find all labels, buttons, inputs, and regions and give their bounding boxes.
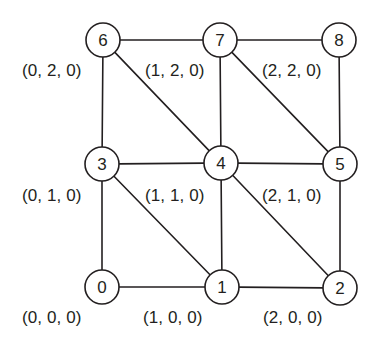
mesh-node-1[interactable]: 1 bbox=[205, 270, 239, 304]
coordinate-label-0-2-0: (0, 2, 0) bbox=[22, 61, 81, 81]
coordinate-label-0-0-0: (0, 0, 0) bbox=[22, 308, 81, 328]
mesh-edge-4-5 bbox=[237, 163, 323, 164]
mesh-edge-4-7 bbox=[220, 56, 221, 146]
mesh-node-5[interactable]: 5 bbox=[323, 147, 357, 181]
mesh-node-6[interactable]: 6 bbox=[86, 23, 120, 57]
mesh-node-3[interactable]: 3 bbox=[85, 147, 119, 181]
node-number-6: 6 bbox=[98, 31, 107, 50]
node-number-2: 2 bbox=[335, 279, 344, 298]
mesh-node-2[interactable]: 2 bbox=[323, 271, 357, 305]
coordinate-label-2-2-0: (2, 2, 0) bbox=[262, 61, 321, 81]
mesh-edge-3-6 bbox=[102, 56, 103, 147]
mesh-edge-1-2 bbox=[238, 287, 323, 288]
mesh-diagram: 012345678 (0, 2, 0)(1, 2, 0)(2, 2, 0)(0,… bbox=[0, 0, 379, 344]
coordinate-label-1-1-0: (1, 1, 0) bbox=[145, 186, 204, 206]
mesh-node-7[interactable]: 7 bbox=[203, 23, 237, 57]
mesh-node-0[interactable]: 0 bbox=[85, 270, 119, 304]
node-number-3: 3 bbox=[97, 155, 106, 174]
mesh-node-4[interactable]: 4 bbox=[204, 146, 238, 180]
coordinate-label-1-0-0: (1, 0, 0) bbox=[143, 308, 202, 328]
node-number-4: 4 bbox=[216, 154, 225, 173]
coordinate-label-1-2-0: (1, 2, 0) bbox=[145, 61, 204, 81]
mesh-edge-1-4 bbox=[221, 179, 222, 270]
coordinate-label-2-1-0: (2, 1, 0) bbox=[262, 186, 321, 206]
coordinate-label-2-0-0: (2, 0, 0) bbox=[263, 308, 322, 328]
node-number-5: 5 bbox=[335, 155, 344, 174]
mesh-edge-3-4 bbox=[118, 163, 204, 164]
node-number-1: 1 bbox=[217, 278, 226, 297]
node-number-7: 7 bbox=[215, 31, 224, 50]
coordinate-label-0-1-0: (0, 1, 0) bbox=[22, 186, 81, 206]
node-number-0: 0 bbox=[97, 278, 106, 297]
mesh-canvas: 012345678 bbox=[0, 0, 379, 344]
node-number-8: 8 bbox=[334, 31, 343, 50]
mesh-node-8[interactable]: 8 bbox=[322, 23, 356, 57]
mesh-edge-5-8 bbox=[339, 56, 340, 147]
